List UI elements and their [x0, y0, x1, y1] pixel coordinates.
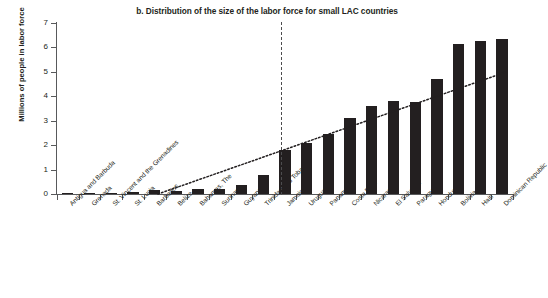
- bars-layer: [57, 23, 513, 194]
- bar: [496, 39, 507, 194]
- x-tick: [57, 195, 58, 200]
- y-tick: [51, 72, 56, 73]
- y-tick-label: 4: [30, 91, 48, 100]
- bar: [62, 193, 73, 194]
- y-tick-label: 3: [30, 116, 48, 125]
- y-tick-label: 7: [30, 18, 48, 27]
- y-tick: [51, 145, 56, 146]
- bar: [344, 118, 355, 194]
- y-tick: [51, 23, 56, 24]
- divider-dashed-line: [281, 22, 282, 195]
- y-tick-label: 6: [30, 42, 48, 51]
- y-tick: [51, 170, 56, 171]
- bar: [192, 189, 203, 194]
- y-tick-label: 0: [30, 189, 48, 198]
- y-tick: [51, 194, 56, 195]
- y-tick: [51, 96, 56, 97]
- chart-title: b. Distribution of the size of the labor…: [0, 6, 534, 16]
- y-axis-label: Millions of people in labor force: [17, 0, 26, 130]
- y-tick-label: 2: [30, 140, 48, 149]
- bar: [388, 101, 399, 194]
- y-tick: [51, 47, 56, 48]
- y-tick-label: 1: [30, 165, 48, 174]
- bar: [475, 41, 486, 194]
- bar: [453, 44, 464, 194]
- y-tick-label: 5: [30, 67, 48, 76]
- y-tick: [51, 121, 56, 122]
- bar: [431, 79, 442, 194]
